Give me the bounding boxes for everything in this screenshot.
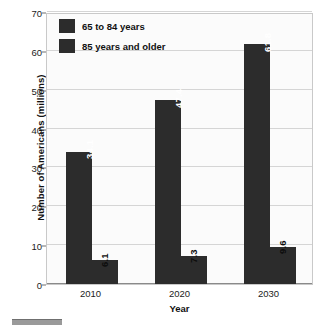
y-tick-label-10: 10 [2, 241, 42, 252]
x-axis-tick-group: 201020202030 [46, 288, 313, 304]
y-tick-label-50: 50 [2, 85, 42, 96]
bar-2020-series0 [155, 100, 181, 284]
gridline-70 [47, 11, 312, 12]
bar-2010-series0 [66, 152, 92, 285]
bar-value-label-2010-series1: 6.1 [99, 253, 110, 267]
bar-value-label-2020-series1: 7.3 [188, 249, 199, 263]
legend-item-0: 65 to 84 years [59, 17, 209, 35]
y-tick-label-60: 60 [2, 46, 42, 57]
legend-swatch-65-to-84 [59, 19, 75, 33]
bar-2030-series0 [244, 44, 270, 284]
x-tick-label-2030: 2030 [258, 288, 279, 299]
bottom-edge-artifact [12, 319, 62, 325]
legend-item-1: 85 years and older [59, 37, 209, 55]
bar-value-label-2020-series0: 47.4 [173, 89, 184, 108]
y-tick-label-30: 30 [2, 163, 42, 174]
bar-value-label-2030-series0: 61.8 [262, 33, 273, 52]
x-axis-title: Year [46, 303, 313, 314]
y-tick-label-40: 40 [2, 124, 42, 135]
bar-chart-figure: Number of Americans (millions) 010203040… [0, 0, 325, 326]
legend-label-85-and-older: 85 years and older [82, 41, 165, 52]
y-tick-label-70: 70 [2, 8, 42, 19]
y-tick-label-0: 0 [2, 280, 42, 291]
x-tick-label-2010: 2010 [80, 288, 101, 299]
legend-label-65-to-84: 65 to 84 years [82, 21, 145, 32]
x-tick-label-2020: 2020 [169, 288, 190, 299]
y-tick-label-20: 20 [2, 202, 42, 213]
y-axis-tick-group: 010203040506070 [0, 13, 42, 285]
bar-value-label-2010-series0: 34.1 [84, 140, 95, 159]
legend-swatch-85-and-older [59, 39, 75, 53]
bar-value-label-2030-series1: 9.6 [277, 240, 288, 254]
chart-legend: 65 to 84 years 85 years and older [59, 17, 209, 57]
